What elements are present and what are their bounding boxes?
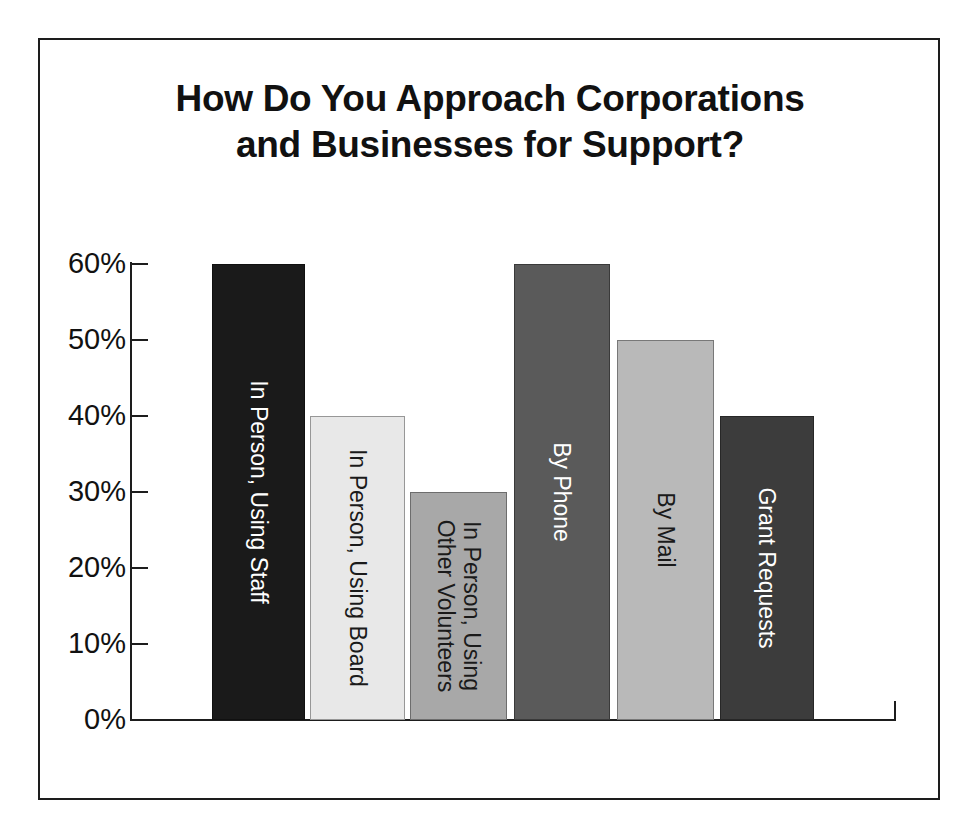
y-axis-tick-label: 30% [40, 477, 126, 506]
y-axis-tick-label: 0% [40, 705, 126, 734]
bar-label: In Person, Using Board [345, 424, 371, 712]
bar[interactable]: Grant Requests [720, 416, 814, 720]
bar[interactable]: By Phone [514, 264, 610, 720]
y-axis-tick-label: 20% [40, 553, 126, 582]
bar[interactable]: In Person, Using Board [310, 416, 405, 720]
y-axis-tick [130, 567, 148, 569]
y-axis-tick [130, 491, 148, 493]
y-axis-tick [130, 719, 148, 721]
x-axis-end-tick [894, 701, 896, 721]
y-axis-tick [130, 643, 148, 645]
bar-label: In Person, Using Other Volunteers [433, 500, 485, 712]
chart-frame: How Do You Approach Corporations and Bus… [38, 38, 940, 800]
y-axis-tick [130, 339, 148, 341]
bar[interactable]: In Person, Using Staff [212, 264, 305, 720]
y-axis-tick-label: 40% [40, 401, 126, 430]
y-axis-tick-label: 10% [40, 629, 126, 658]
bar-label: By Mail [653, 348, 679, 712]
bar-label: By Phone [549, 272, 575, 712]
y-axis-tick [130, 415, 148, 417]
y-axis-tick [130, 263, 148, 265]
bar[interactable]: By Mail [617, 340, 714, 720]
y-axis-tick-label: 50% [40, 325, 126, 354]
chart-page: How Do You Approach Corporations and Bus… [0, 0, 972, 837]
bar-label: In Person, Using Staff [246, 272, 272, 712]
bar-label: Grant Requests [754, 424, 780, 712]
y-axis-tick-label: 60% [40, 249, 126, 278]
plot-area: 0%10%20%30%40%50%60% In Person, Using St… [40, 40, 942, 802]
bar[interactable]: In Person, Using Other Volunteers [410, 492, 507, 720]
